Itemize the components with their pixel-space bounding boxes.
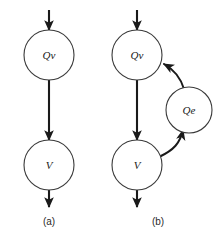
edge-b-qe-to-qv <box>164 64 184 89</box>
node-b-qv-label: Qv <box>131 49 144 61</box>
edge-b-v-to-qe <box>159 130 183 157</box>
caption-panel-b: (b) <box>152 216 164 227</box>
node-a-qv-label: Qv <box>43 49 56 61</box>
panel-a: Qv V (a) <box>24 10 74 227</box>
diagram-canvas: Qv V (a) Qv V Qe (b) <box>0 0 218 244</box>
figure-root: Qv V (a) Qv V Qe (b) <box>0 0 218 244</box>
node-b-qe-label: Qe <box>183 104 196 116</box>
panel-b: Qv V Qe (b) <box>112 10 212 227</box>
caption-panel-a: (a) <box>43 216 55 227</box>
